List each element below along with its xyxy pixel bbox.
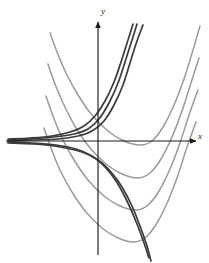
curve-dark-exponential-3 bbox=[8, 25, 143, 141]
curve-dark-descending-2 bbox=[8, 143, 151, 261]
figure-canvas: x y bbox=[0, 0, 209, 263]
curve-gray-parabola-1 bbox=[50, 26, 200, 145]
curve-gray-parabola-4 bbox=[44, 122, 196, 242]
curve-plot bbox=[0, 0, 209, 263]
y-axis-label: y bbox=[101, 7, 105, 16]
curve-gray-parabola-2 bbox=[48, 58, 199, 178]
x-axis-label: x bbox=[198, 132, 202, 141]
